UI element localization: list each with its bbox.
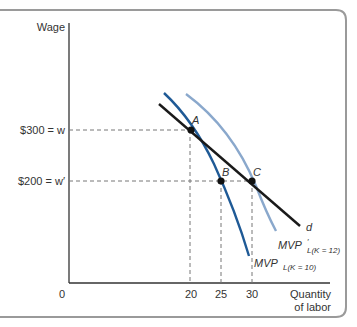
origin-label: 0 — [59, 288, 65, 300]
x-axis-label-line1: Quantity — [290, 288, 331, 300]
svg-text:L(K = 10): L(K = 10) — [283, 263, 316, 272]
point-b-label: B — [222, 166, 229, 178]
chart-canvas: A B C Wage $300 = w $200 = w′ 0 20 25 30… — [0, 0, 357, 327]
point-c — [248, 177, 255, 184]
mvp-k10-curve — [164, 93, 249, 256]
mvp-k12-label: MVP ′ L(K = 12) — [278, 237, 340, 255]
y-tick-200: $200 = w′ — [18, 175, 65, 187]
point-a — [187, 126, 194, 133]
y-tick-300: $300 = w — [20, 124, 65, 136]
x-tick-30: 30 — [246, 288, 258, 300]
svg-text:MVP: MVP — [278, 239, 303, 251]
x-tick-20: 20 — [185, 288, 197, 300]
mvp-k12-curve — [186, 94, 276, 231]
y-axis-label: Wage — [37, 21, 65, 33]
svg-text:L(K = 12): L(K = 12) — [307, 246, 340, 255]
x-axis-label-line2: of labor — [294, 301, 331, 313]
x-tick-25: 25 — [215, 288, 227, 300]
point-a-label: A — [191, 114, 199, 126]
point-b — [217, 177, 224, 184]
demand-line-d — [159, 104, 300, 226]
guide-lines — [69, 130, 252, 283]
svg-text:′: ′ — [307, 237, 309, 246]
demand-curve-label: d — [306, 221, 313, 233]
point-c-label: C — [253, 166, 261, 178]
svg-text:MVP: MVP — [254, 257, 279, 269]
mvp-k10-label: MVP L(K = 10) — [254, 257, 316, 272]
